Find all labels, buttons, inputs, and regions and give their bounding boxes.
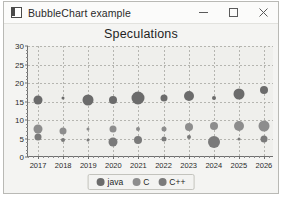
y-axis-minor-tick [26,124,28,125]
gridline-horizontal [28,65,273,66]
maximize-icon [228,7,239,18]
legend-label: java [108,177,124,187]
bubble-point[interactable] [35,133,42,140]
x-axis-minor-tick [244,156,245,158]
minimize-button[interactable] [188,2,218,23]
x-axis-minor-tick [103,156,104,158]
y-axis-minor-tick [26,153,28,154]
x-axis-minor-tick [249,156,250,158]
legend-item[interactable]: C++ [158,177,185,187]
bubble-point[interactable] [110,126,117,133]
bubble-point[interactable] [260,86,268,94]
legend-label: C++ [169,177,185,187]
x-axis-minor-tick [229,156,230,158]
bubble-point[interactable] [258,120,269,131]
y-axis-minor-tick [26,127,28,128]
x-axis-tick [189,156,190,159]
bubble-point[interactable] [233,89,244,100]
x-axis-minor-tick [108,156,109,158]
bubble-point[interactable] [87,139,90,142]
bubble-point[interactable] [208,136,220,148]
legend-item[interactable]: C [132,177,149,187]
x-axis-minor-tick [224,156,225,158]
bubble-point[interactable] [61,138,65,142]
title-bar[interactable]: BubbleChart example [4,2,278,24]
y-axis-minor-tick [26,94,28,95]
y-axis-minor-tick [26,135,28,136]
y-axis-minor-tick [26,87,28,88]
x-axis-tick-label: 2024 [205,161,222,170]
bubble-point[interactable] [234,121,244,131]
bubble-point[interactable] [60,128,67,135]
legend-item[interactable]: java [97,177,124,187]
x-axis-tick-label: 2023 [180,161,197,170]
x-axis-tick-label: 2017 [30,161,47,170]
chart-title: Speculations [4,27,278,41]
x-axis-minor-tick [159,156,160,158]
bubble-point[interactable] [260,135,267,142]
y-axis-minor-tick [26,150,28,151]
bubble-point[interactable] [185,123,193,131]
x-axis-minor-tick [48,156,49,158]
bubble-point[interactable] [136,127,140,131]
bubble-point[interactable] [132,91,145,104]
close-icon [258,7,269,18]
app-icon [11,7,22,18]
y-axis-minor-tick [26,116,28,117]
x-axis-minor-tick [254,156,255,158]
bubble-point[interactable] [161,136,166,141]
x-axis-minor-tick [68,156,69,158]
x-axis-minor-tick [28,156,29,158]
x-axis-tick [38,156,39,159]
bubble-point[interactable] [161,127,166,132]
y-axis-tick-label: 0 [20,153,24,162]
x-axis-tick [88,156,89,159]
y-axis-minor-tick [26,98,28,99]
x-axis-minor-tick [154,156,155,158]
bubble-point[interactable] [160,94,167,101]
bubble-point[interactable] [83,94,94,105]
y-axis-tick-label: 5 [20,134,24,143]
x-axis-minor-tick [219,156,220,158]
bubble-point[interactable] [109,138,118,147]
maximize-button[interactable] [218,2,248,23]
x-axis-minor-tick [259,156,260,158]
caption-strip [0,196,283,208]
close-button[interactable] [248,2,278,23]
bubble-point[interactable] [134,136,142,144]
bubble-point[interactable] [34,95,43,104]
x-axis-minor-tick [169,156,170,158]
bubble-point[interactable] [212,96,216,100]
x-axis-minor-tick [33,156,34,158]
x-axis-tick-label: 2018 [55,161,72,170]
bubble-point[interactable] [187,135,191,139]
gridline-vertical [189,46,190,156]
y-axis-minor-tick [26,57,28,58]
x-axis-minor-tick [148,156,149,158]
x-axis-minor-tick [194,156,195,158]
x-axis-tick [138,156,139,159]
x-axis-minor-tick [269,156,270,158]
y-axis-tick [25,83,28,84]
y-axis-minor-tick [26,142,28,143]
bubble-point[interactable] [184,91,194,101]
bubble-point[interactable] [237,137,240,140]
x-axis-minor-tick [43,156,44,158]
y-axis-tick-label: 15 [15,97,24,106]
y-axis-tick-label: 20 [15,79,24,88]
x-axis-tick [239,156,240,159]
x-axis-tick-label: 2025 [231,161,248,170]
x-axis-tick [63,156,64,159]
bubble-point[interactable] [87,128,90,131]
y-axis-tick-label: 25 [15,60,24,69]
x-axis-minor-tick [143,156,144,158]
y-axis-minor-tick [26,53,28,54]
bubble-point[interactable] [109,96,117,104]
x-axis-tick [164,156,165,159]
bubblechart-window: BubbleChart example Speculations 0510152… [3,1,279,194]
x-axis-minor-tick [93,156,94,158]
x-axis-minor-tick [174,156,175,158]
bubble-point[interactable] [62,96,65,99]
chart-area: Speculations 051015202530 20172018201920… [4,24,278,193]
bubble-point[interactable] [210,122,218,130]
